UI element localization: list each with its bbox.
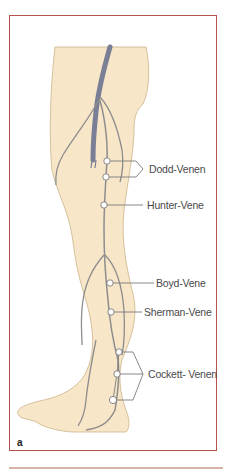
label-cockett-venen: Cockett- Venen [148, 368, 217, 380]
leg-vein-diagram [0, 0, 232, 470]
panel-letter: a [17, 437, 23, 448]
label-dodd-venen: Dodd-Venen [149, 163, 205, 175]
label-boyd-vene: Boyd-Vene [156, 277, 206, 289]
label-sherman-vene: Sherman-Vene [144, 306, 212, 318]
label-hunter-vene: Hunter-Vene [147, 199, 204, 211]
